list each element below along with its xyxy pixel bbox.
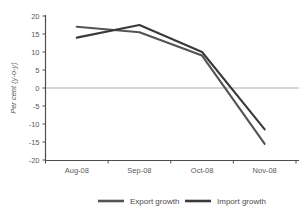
chart-page: Per cent (y-o-y) 20151050-5-10-15-20 Aug… — [0, 0, 305, 213]
y-tick-label: -5 — [33, 102, 40, 111]
y-tick-label: 20 — [31, 12, 39, 21]
y-tick-label: -20 — [29, 156, 40, 165]
y-axis-title: Per cent (y-o-y) — [9, 62, 18, 114]
y-tick-label: 5 — [35, 66, 39, 75]
y-tick-label: -10 — [29, 120, 40, 129]
x-tick-label: Aug-08 — [65, 166, 89, 175]
legend-label: Export growth — [130, 197, 179, 206]
y-tick-label: 10 — [31, 48, 39, 57]
line-chart: Per cent (y-o-y) 20151050-5-10-15-20 Aug… — [0, 0, 305, 213]
y-axis-label: Per cent (y-o-y) — [9, 62, 18, 114]
y-tick-label: -15 — [29, 138, 40, 147]
y-tick-label: 15 — [31, 30, 39, 39]
y-tick-label: 0 — [35, 84, 39, 93]
legend-label: Import growth — [217, 197, 266, 206]
x-tick-label: Oct-08 — [191, 166, 214, 175]
x-tick-label: Nov-08 — [253, 166, 277, 175]
x-tick-label: Sep-08 — [127, 166, 151, 175]
